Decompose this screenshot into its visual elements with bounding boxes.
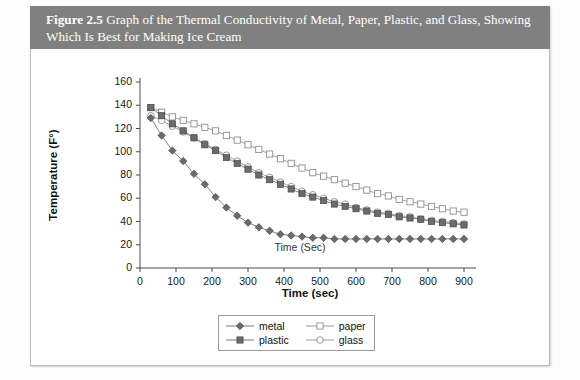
figure-title-band: Figure 2.5 Graph of the Thermal Conducti… <box>30 6 550 49</box>
legend-item-metal[interactable]: metal <box>225 320 289 332</box>
legend-label: metal <box>259 320 285 332</box>
x-tick-label: 500 <box>300 275 340 287</box>
legend-label: glass <box>339 334 364 346</box>
legend-item-paper[interactable]: paper <box>305 320 366 332</box>
y-tick-label: 40 <box>98 215 132 227</box>
x-tick-label: 0 <box>120 275 160 287</box>
chart-area: Temperature (F°) Time (sec) Time (Sec) 0… <box>30 49 550 366</box>
legend-marker-filled-square-icon <box>225 334 255 346</box>
y-tick-label: 80 <box>98 168 132 180</box>
x-tick-label: 400 <box>264 275 304 287</box>
chart-legend: metalpaperplasticglass <box>218 315 375 351</box>
legend-item-glass[interactable]: glass <box>305 334 366 346</box>
x-tick-label: 700 <box>372 275 412 287</box>
x-tick-label: 800 <box>408 275 448 287</box>
y-tick-label: 140 <box>98 98 132 110</box>
figure-number: Figure 2.5 <box>46 12 103 27</box>
x-tick-label: 600 <box>336 275 376 287</box>
x-tick-label: 900 <box>444 275 484 287</box>
series-glass <box>148 112 468 227</box>
legend-item-plastic[interactable]: plastic <box>225 334 289 346</box>
legend-label: paper <box>339 320 366 332</box>
y-tick-label: 0 <box>98 261 132 273</box>
y-tick-label: 160 <box>98 75 132 87</box>
series-metal <box>147 114 468 242</box>
legend-marker-filled-diamond-icon <box>225 320 255 332</box>
y-tick-label: 60 <box>98 191 132 203</box>
x-tick-label: 200 <box>192 275 232 287</box>
series-paper <box>148 104 467 215</box>
legend-marker-open-circle-icon <box>305 334 335 346</box>
figure-root: Figure 2.5 Graph of the Thermal Conducti… <box>0 0 580 380</box>
x-tick-label: 300 <box>228 275 268 287</box>
y-tick-label: 100 <box>98 145 132 157</box>
y-tick-label: 120 <box>98 122 132 134</box>
x-tick-label: 100 <box>156 275 196 287</box>
y-tick-label: 20 <box>98 238 132 250</box>
legend-marker-open-square-icon <box>305 320 335 332</box>
figure-caption: Graph of the Thermal Conductivity of Met… <box>46 12 531 44</box>
legend-label: plastic <box>259 334 289 346</box>
